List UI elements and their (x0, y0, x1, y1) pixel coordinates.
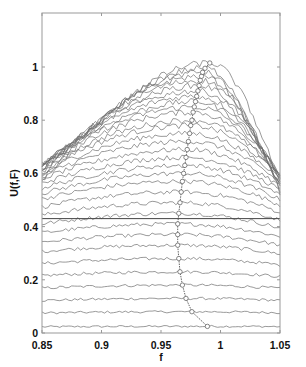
peak-marker-icon (200, 70, 204, 74)
spectrum-curve (42, 284, 280, 289)
y-tick-label: 0.2 (23, 274, 38, 286)
peak-marker-icon (180, 179, 184, 183)
peak-marker-icon (192, 105, 196, 109)
spectrum-curve (42, 257, 280, 266)
spectrum-curve (42, 244, 280, 255)
peak-marker-icon (196, 89, 200, 93)
x-tick-label: 1 (218, 339, 224, 351)
peak-marker-icon (176, 232, 180, 236)
y-tick-label: 1 (32, 61, 38, 73)
peak-marker-icon (181, 171, 185, 175)
y-tick-label: 0.6 (23, 167, 38, 179)
peak-marker-icon (185, 147, 189, 151)
spectrum-curve (42, 123, 280, 180)
spectrum-curve (42, 140, 280, 184)
peak-marker-icon (186, 139, 190, 143)
peak-marker-icon (203, 66, 207, 70)
peak-marker-icon (208, 61, 212, 65)
peak-marker-icon (187, 131, 191, 135)
y-axis-ticks: 00.20.40.60.81 (23, 61, 280, 339)
spectrum-curve (42, 233, 280, 246)
peak-marker-icon (193, 99, 197, 103)
peak-marker-icon (195, 94, 199, 98)
y-axis-label: U(f,F) (8, 169, 20, 196)
peak-marker-icon (177, 256, 181, 260)
peak-marker-icon (176, 222, 180, 226)
peak-marker-icon (177, 211, 181, 215)
peak-marker-icon (190, 118, 194, 122)
x-axis-label: f (159, 351, 163, 363)
peak-marker-icon (183, 163, 187, 167)
peak-marker-icon (179, 190, 183, 194)
spectrum-curve (42, 297, 280, 301)
spectrum-curve (42, 271, 280, 278)
x-tick-label: 0.9 (94, 339, 109, 351)
spectrum-curve (42, 118, 280, 177)
peak-marker-icon (176, 243, 180, 247)
y-tick-label: 0.4 (23, 221, 38, 233)
peak-marker-icon (205, 324, 209, 328)
spectrum-curve (42, 222, 280, 237)
spectrum-curve (42, 88, 280, 175)
peak-marker-icon (190, 310, 194, 314)
y-tick-label: 0 (32, 327, 38, 339)
spectrum-curve (42, 164, 280, 194)
x-tick-label: 1.05 (270, 339, 291, 351)
peak-marker-icon (189, 123, 193, 127)
peak-marker-icon (178, 201, 182, 205)
chart: 0.850.90.9511.05 00.20.40.60.81 f U(f,F) (0, 0, 306, 367)
peak-marker-trail (176, 61, 213, 329)
peak-marker-icon (184, 155, 188, 159)
peak-marker-icon (184, 296, 188, 300)
spectrum-curve (42, 311, 280, 314)
curve-family (42, 61, 280, 328)
x-tick-label: 0.85 (32, 339, 53, 351)
peak-marker-icon (180, 283, 184, 287)
peak-marker-icon (178, 270, 182, 274)
spectrum-curve (42, 147, 280, 184)
x-tick-label: 0.95 (151, 339, 172, 351)
y-tick-label: 0.8 (23, 114, 38, 126)
peak-marker-icon (191, 110, 195, 114)
spectrum-curve (42, 212, 280, 228)
spectrum-curve (42, 325, 280, 327)
peak-marker-icon (197, 83, 201, 87)
